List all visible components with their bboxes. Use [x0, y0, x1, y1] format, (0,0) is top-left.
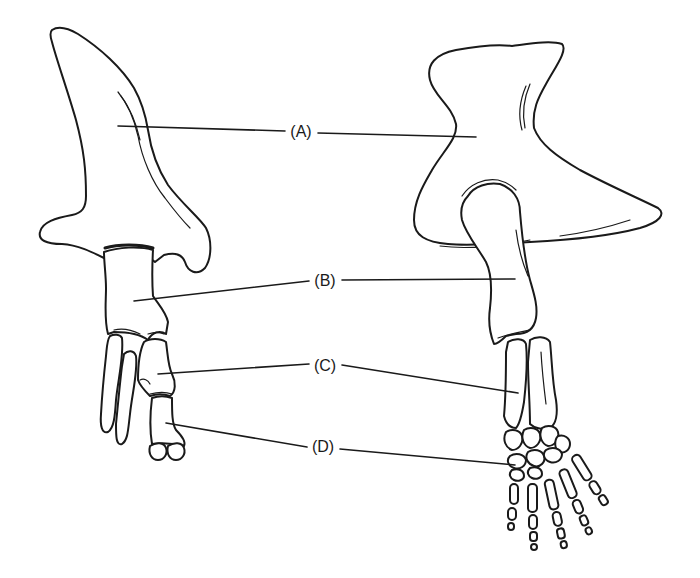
left-bone-d [151, 397, 185, 447]
left-limb [40, 28, 211, 460]
phalanx [508, 508, 516, 520]
phalanx [530, 532, 537, 541]
leader-d-left [166, 423, 307, 447]
phalanx [598, 494, 609, 506]
carpal [504, 430, 522, 450]
left-bone-a [40, 28, 211, 273]
leader-d-right [340, 449, 515, 465]
right-digits [508, 453, 609, 550]
phalanx [510, 484, 518, 504]
phalanx [529, 515, 537, 529]
carpal [544, 448, 562, 463]
label-d: (D) [311, 438, 335, 456]
label-b: (B) [313, 272, 336, 290]
leader-c-right [342, 365, 518, 393]
phalanx [571, 453, 593, 482]
label-a: (A) [289, 123, 312, 141]
phalanx [556, 528, 565, 539]
carpal [510, 469, 524, 481]
carpal [526, 450, 544, 466]
right-limb [414, 42, 661, 550]
right-bone-c-1 [504, 339, 527, 428]
phalanx [585, 527, 593, 536]
carpal [508, 454, 526, 469]
phalanx [528, 484, 537, 512]
right-bone-c-2 [528, 337, 557, 429]
limb-homology-diagram [0, 0, 700, 578]
label-c: (C) [313, 357, 337, 375]
left-digit-tip-2 [167, 443, 184, 460]
leader-b-left [134, 281, 309, 301]
phalanx [588, 480, 602, 496]
carpal [522, 428, 540, 448]
phalanx [508, 523, 514, 530]
phalanx [560, 541, 567, 549]
phalanx [572, 499, 585, 515]
left-digit-tip-1 [149, 443, 166, 460]
carpal [528, 467, 542, 479]
phalanx [558, 468, 578, 499]
phalanx [552, 511, 563, 526]
left-bone-c [138, 339, 175, 396]
leader-c-left [158, 364, 309, 374]
leader-a-right [318, 133, 476, 137]
phalanx [544, 479, 559, 510]
right-bone-a [414, 42, 661, 245]
phalanx [579, 514, 589, 526]
left-bone-b [104, 248, 168, 340]
leader-b-right [342, 279, 515, 280]
phalanx [531, 544, 537, 550]
